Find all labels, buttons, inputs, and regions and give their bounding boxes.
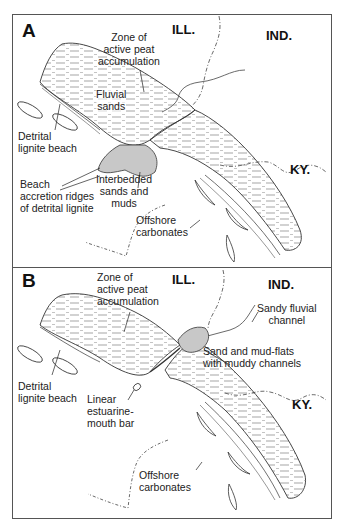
- map-drawings: [0, 0, 348, 522]
- panel-b-label-estuarine-bar: Linear estuarine- mouth bar: [87, 393, 134, 429]
- panel-b-state-illinois: ILL.: [172, 272, 195, 287]
- panel-b-state-indiana: IND.: [268, 277, 294, 292]
- panel-b-letter: B: [22, 270, 36, 292]
- panel-b-label-peat-zone: Zone of active peat accumulation: [97, 271, 159, 307]
- panel-a-label-detrital-beach: Detrital lignite beach: [18, 130, 77, 154]
- panel-a-label-fluvial-sands: Fluvial sands: [96, 88, 126, 112]
- panel-a-label-accretion-ridges: Beach accretion ridges of detrital ligni…: [20, 178, 94, 214]
- panel-b-label-sandy-channel: Sandy fluvial channel: [257, 302, 317, 326]
- panel-b-label-offshore-carbonates: Offshore carbonates: [139, 469, 191, 493]
- panel-a-label-offshore-carbonates: Offshore carbonates: [136, 214, 188, 238]
- panel-a-label-peat-zone: Zone of active peat accumulation: [98, 31, 160, 67]
- panel-a-state-illinois: ILL.: [172, 22, 195, 37]
- panel-a-label-interbedded: Interbedded sands and muds: [96, 173, 152, 209]
- panel-b-label-mud-flats: Sand and mud-flats with muddy channels: [203, 345, 301, 369]
- panel-a-state-kentucky: KY.: [290, 162, 310, 177]
- panel-a-letter: A: [22, 20, 36, 42]
- panel-b-state-kentucky: KY.: [292, 397, 312, 412]
- delta-a: [98, 145, 157, 176]
- panel-a-state-indiana: IND.: [266, 28, 292, 43]
- panel-b-label-detrital-beach: Detrital lignite beach: [18, 380, 77, 404]
